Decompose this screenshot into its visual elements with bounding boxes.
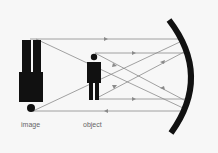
object-label: object [83, 121, 102, 128]
ray-diagram: image object [0, 0, 218, 153]
image-figure [19, 40, 43, 112]
concave-mirror [169, 20, 191, 133]
light-rays [30, 37, 185, 113]
image-label: image [21, 121, 40, 128]
object-figure [87, 54, 101, 100]
diagram-svg [0, 0, 218, 153]
